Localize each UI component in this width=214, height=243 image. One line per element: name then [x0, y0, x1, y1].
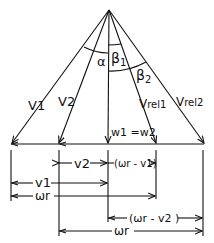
- velocity-diagram: V1 V2 w1 =w2 Vrel1 Vrel2 α β1 β2 v2 (ωr …: [0, 0, 214, 243]
- vector-lines: [12, 10, 204, 143]
- v2-vector: [59, 10, 109, 143]
- beta2-label: β2: [136, 67, 151, 85]
- vrel1-label: Vrel1: [139, 97, 166, 111]
- v1-label: V1: [28, 98, 45, 113]
- beta1-arc: [108, 44, 121, 45]
- dim-wr-2-label: ωr: [114, 224, 129, 238]
- dim-v2-label: v2: [74, 156, 90, 171]
- dim-wr-1-label: ωr: [35, 189, 50, 203]
- dim-wr-minus-v2-label: (ωr - v2 ): [129, 212, 179, 225]
- vrel2-label: Vrel2: [176, 95, 203, 109]
- w-vector: [108, 10, 109, 143]
- w-label: w1 =w2: [111, 126, 156, 139]
- diagram-svg: V1 V2 w1 =w2 Vrel1 Vrel2 α β1 β2 v2 (ωr …: [0, 0, 214, 243]
- vrel2-vector: [109, 10, 204, 143]
- alpha-label: α: [97, 54, 106, 69]
- v2-label: V2: [58, 94, 75, 109]
- alpha-arc: [84, 47, 108, 53]
- dim-wr-minus-v1-label: (ωr - v1): [114, 158, 157, 169]
- v1-vector: [12, 10, 109, 143]
- dim-v1-label: v1: [35, 175, 51, 190]
